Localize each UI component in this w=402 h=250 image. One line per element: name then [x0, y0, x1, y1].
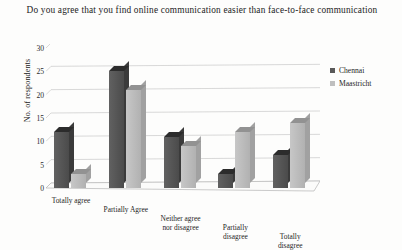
bar-face [218, 174, 233, 188]
x-tick-label: Totally disagree [267, 232, 313, 250]
bar-chennai-3 [218, 174, 233, 188]
legend-swatch-icon [330, 68, 335, 73]
bar-maastricht-1 [126, 90, 141, 188]
x-tick-label: Neither agree nor disagree [158, 214, 204, 233]
y-tick-label: 5 [40, 160, 44, 169]
y-axis-tick-labels: 302520151050 [28, 44, 44, 188]
bar-side [305, 113, 310, 183]
bar-maastricht-2 [181, 146, 196, 188]
bar-face [290, 123, 305, 188]
legend-swatch-icon [330, 81, 335, 86]
y-tick-label: 10 [36, 137, 44, 146]
bar-face [126, 90, 141, 188]
legend-item-maastricht: Maastricht [330, 79, 396, 88]
chart-figure: Do you agree that you find online commun… [0, 0, 402, 250]
bar-face [71, 174, 86, 188]
legend-label: Chennai [339, 66, 364, 75]
y-tick-label: 0 [40, 184, 44, 193]
bar-side [250, 122, 255, 183]
y-tick-label: 30 [36, 44, 44, 53]
bars-layer [46, 44, 320, 192]
bar-side [141, 80, 146, 183]
x-tick-label: Totally agree [48, 196, 94, 205]
legend-item-chennai: Chennai [330, 66, 396, 75]
chart-legend: Chennai Maastricht [330, 66, 396, 92]
y-tick-label: 25 [36, 67, 44, 76]
bar-chennai-4 [273, 155, 288, 188]
bar-face [54, 132, 69, 188]
bar-maastricht-3 [235, 132, 250, 188]
bar-maastricht-0 [71, 174, 86, 188]
bar-face [109, 71, 124, 188]
bar-face [235, 132, 250, 188]
bar-face [164, 137, 179, 188]
bar-face [273, 155, 288, 188]
bar-maastricht-4 [290, 123, 305, 188]
bar-chennai-0 [54, 132, 69, 188]
bar-face [181, 146, 196, 188]
chart-title: Do you agree that you find online commun… [26, 4, 378, 17]
y-tick-label: 20 [36, 90, 44, 99]
bar-chennai-2 [164, 137, 179, 188]
x-tick-label: Partially disagree [212, 223, 258, 242]
y-tick-label: 15 [36, 114, 44, 123]
legend-label: Maastricht [339, 79, 371, 88]
bar-chennai-1 [109, 71, 124, 188]
bar-side [86, 164, 91, 183]
plot-area: 302520151050 [46, 44, 320, 192]
x-tick-label: Partially Agree [103, 205, 149, 214]
